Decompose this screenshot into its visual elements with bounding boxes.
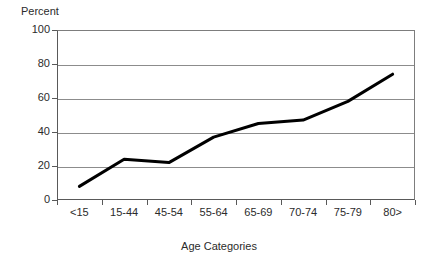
x-axis-tick-mark bbox=[102, 200, 103, 205]
y-axis-tick-label: 80 bbox=[16, 57, 50, 69]
y-axis-tick-label: 60 bbox=[16, 91, 50, 103]
x-axis-tick-mark bbox=[236, 200, 237, 205]
y-axis-tick-label: 0 bbox=[16, 193, 50, 205]
x-axis-tick-label: 80> bbox=[370, 206, 415, 218]
line-chart: Percent 020406080100 <1515-4445-5455-646… bbox=[0, 0, 438, 264]
x-axis-tick-label: 15-44 bbox=[102, 206, 147, 218]
x-axis-tick-mark bbox=[57, 200, 58, 205]
x-axis-tick-label: 45-54 bbox=[147, 206, 192, 218]
x-axis-tick-mark bbox=[147, 200, 148, 205]
y-axis-tick-mark bbox=[52, 64, 57, 65]
gridline bbox=[58, 65, 414, 66]
gridline bbox=[58, 133, 414, 134]
plot-area bbox=[57, 30, 415, 200]
y-axis-tick-mark bbox=[52, 166, 57, 167]
gridline bbox=[58, 167, 414, 168]
x-axis-tick-label: 75-79 bbox=[326, 206, 371, 218]
y-axis-title: Percent bbox=[21, 5, 59, 18]
y-axis-tick-label: 40 bbox=[16, 125, 50, 137]
x-axis-tick-label: <15 bbox=[57, 206, 102, 218]
y-axis-tick-label: 100 bbox=[16, 23, 50, 35]
x-axis-tick-mark bbox=[415, 200, 416, 205]
y-axis-tick-mark bbox=[52, 30, 57, 31]
y-axis-tick-mark bbox=[52, 132, 57, 133]
x-axis-tick-mark bbox=[281, 200, 282, 205]
gridline bbox=[58, 99, 414, 100]
x-axis-tick-label: 70-74 bbox=[281, 206, 326, 218]
y-axis-tick-label: 20 bbox=[16, 159, 50, 171]
x-axis-tick-mark bbox=[370, 200, 371, 205]
x-axis-tick-mark bbox=[191, 200, 192, 205]
x-axis-tick-label: 65-69 bbox=[236, 206, 281, 218]
x-axis-title: Age Categories bbox=[0, 240, 438, 252]
y-axis-tick-mark bbox=[52, 98, 57, 99]
x-axis-tick-label: 55-64 bbox=[191, 206, 236, 218]
x-axis-tick-mark bbox=[326, 200, 327, 205]
